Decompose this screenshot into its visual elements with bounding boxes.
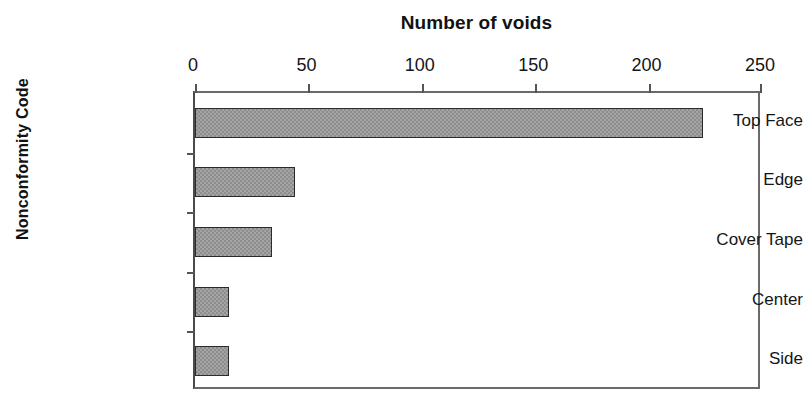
- x-axis-tick-label: 200: [632, 55, 662, 76]
- bar: [195, 227, 272, 257]
- x-axis-tick-label: 150: [518, 55, 548, 76]
- y-axis-tick-mark: [187, 272, 195, 274]
- y-axis-tick-mark: [187, 153, 195, 155]
- y-axis-tick-mark: [187, 212, 195, 214]
- x-axis-tick-label: 50: [296, 55, 316, 76]
- x-axis-tick-label: 0: [188, 55, 198, 76]
- x-axis-tick-mark: [195, 84, 197, 93]
- bar: [195, 346, 229, 376]
- y-axis-category-label: Side: [625, 349, 803, 369]
- bar: [195, 287, 229, 317]
- x-axis-tick-mark: [760, 84, 762, 93]
- x-axis-tick-mark: [308, 84, 310, 93]
- y-axis-title: Nonconformity Code: [14, 78, 32, 240]
- bar: [195, 167, 295, 197]
- bar-chart: Number of voids 050100150200250 Nonconfo…: [0, 0, 803, 415]
- x-axis-tick-labels: 050100150200250: [0, 55, 803, 79]
- y-axis-tick-mark: [187, 331, 195, 333]
- y-axis-category-label: Edge: [625, 170, 803, 190]
- y-axis-category-label: Top Face: [625, 111, 803, 131]
- x-axis-tick-mark: [649, 84, 651, 93]
- x-axis-tick-mark: [535, 84, 537, 93]
- x-axis-tick-label: 100: [405, 55, 435, 76]
- y-axis-category-label: Center: [625, 290, 803, 310]
- x-axis-tick-mark: [422, 84, 424, 93]
- chart-title: Number of voids: [193, 12, 760, 34]
- x-axis-tick-label: 250: [745, 55, 775, 76]
- y-axis-category-label: Cover Tape: [625, 230, 803, 250]
